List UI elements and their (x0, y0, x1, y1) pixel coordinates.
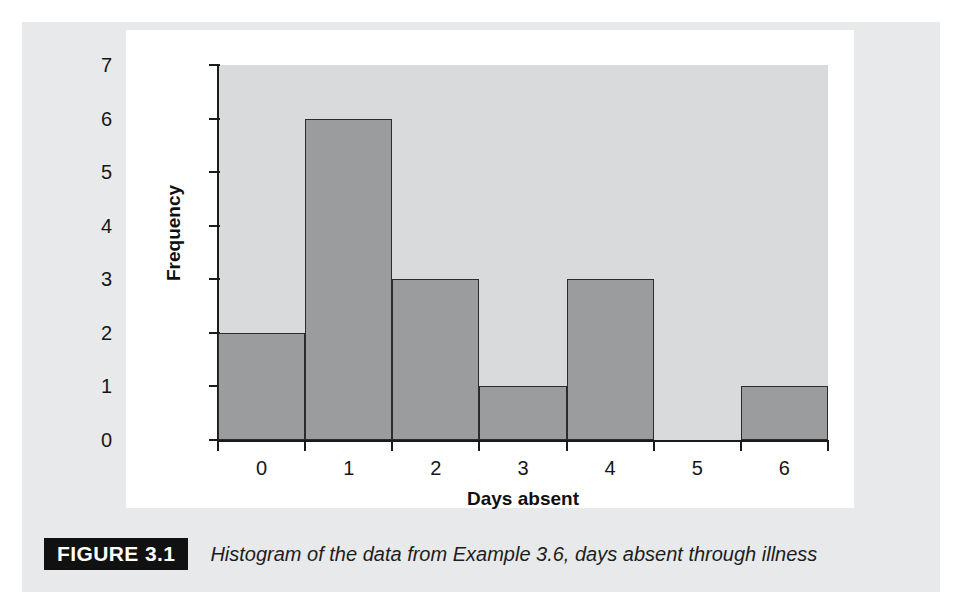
histogram-bar (567, 279, 654, 440)
figure-caption: FIGURE 3.1 Histogram of the data from Ex… (44, 534, 817, 574)
x-tick-label: 0 (242, 458, 282, 478)
histogram-bar (218, 333, 305, 440)
x-axis-line (217, 440, 829, 442)
plot-card: 01234567 0123456 Days absent Frequency (126, 30, 854, 508)
x-tick-label: 3 (503, 458, 543, 478)
x-axis-title: Days absent (218, 488, 828, 510)
x-tick (304, 440, 306, 451)
histogram-bar (392, 279, 479, 440)
y-tick-label: 4 (86, 216, 112, 236)
x-tick (391, 440, 393, 451)
x-tick (827, 440, 829, 451)
y-tick-label: 6 (86, 109, 112, 129)
y-tick-label: 0 (86, 430, 112, 450)
x-tick (653, 440, 655, 451)
histogram-bar (305, 119, 392, 440)
x-tick-label: 6 (764, 458, 804, 478)
y-tick-label: 5 (86, 162, 112, 182)
figure-number-badge: FIGURE 3.1 (44, 538, 188, 570)
y-tick (209, 64, 220, 66)
x-tick (217, 440, 219, 451)
x-tick-label: 2 (416, 458, 456, 478)
x-tick-label: 5 (677, 458, 717, 478)
x-tick (478, 440, 480, 451)
y-tick-label: 1 (86, 376, 112, 396)
histogram-bar (479, 386, 566, 440)
y-tick-label: 2 (86, 323, 112, 343)
x-tick (566, 440, 568, 451)
y-tick (209, 225, 220, 227)
x-tick-label: 4 (590, 458, 630, 478)
y-tick (209, 118, 220, 120)
x-tick (740, 440, 742, 451)
figure-caption-text: Histogram of the data from Example 3.6, … (210, 543, 817, 566)
figure-panel: 01234567 0123456 Days absent Frequency F… (22, 22, 940, 592)
histogram-bar (741, 386, 828, 440)
y-tick-label: 3 (86, 269, 112, 289)
y-tick (209, 278, 220, 280)
y-tick-label: 7 (86, 55, 112, 75)
x-tick-label: 1 (329, 458, 369, 478)
y-tick (209, 171, 220, 173)
y-axis-title: Frequency (163, 143, 185, 323)
